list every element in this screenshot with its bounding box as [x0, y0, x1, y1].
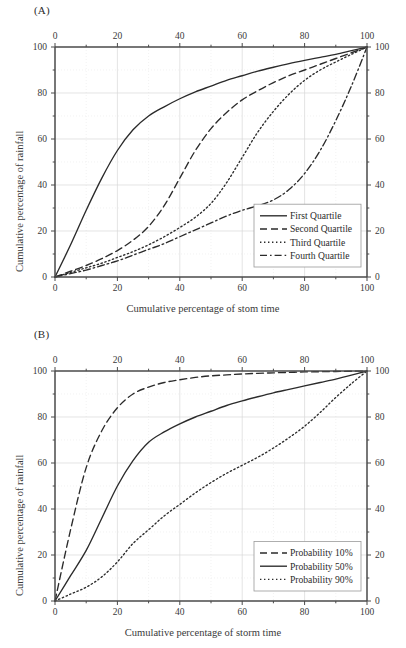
ytick-label-right: 20: [375, 226, 385, 236]
xtick-label-bottom: 60: [237, 283, 247, 293]
xtick-label-bottom: 0: [53, 607, 58, 617]
panel-b: (B) Cumulative percentage of storm time …: [0, 324, 406, 648]
xtick-label-bottom: 40: [175, 283, 185, 293]
ytick-label-right: 60: [375, 458, 385, 468]
xtick-label-top: 60: [237, 355, 247, 365]
ytick-label-right: 40: [375, 504, 385, 514]
ytick-label-right: 60: [375, 134, 385, 144]
xtick-label-top: 20: [113, 355, 123, 365]
xtick-label-top: 20: [113, 31, 123, 41]
ytick-label-left: 80: [38, 88, 48, 98]
ytick-label-left: 100: [33, 366, 48, 376]
ytick-label-left: 60: [38, 134, 48, 144]
ytick-label-right: 80: [375, 412, 385, 422]
ytick-label-right: 0: [375, 272, 380, 282]
ytick-label-left: 20: [38, 226, 48, 236]
ytick-label-left: 40: [38, 504, 48, 514]
ytick-label-left: 0: [42, 596, 47, 606]
xtick-label-bottom: 100: [360, 607, 375, 617]
ytick-label-right: 100: [375, 42, 390, 52]
legend-label-2: Probability 50%: [290, 561, 353, 572]
legend-label-4: Fourth Quartile: [290, 250, 349, 261]
legend-label-1: First Quartile: [290, 210, 341, 221]
ytick-label-left: 40: [38, 180, 48, 190]
xtick-label-top: 80: [300, 31, 310, 41]
ytick-label-left: 60: [38, 458, 48, 468]
ytick-label-left: 0: [42, 272, 47, 282]
xtick-label-bottom: 40: [175, 607, 185, 617]
ytick-label-right: 40: [375, 180, 385, 190]
panel-a-plot: 0020204040606080801001000020204040606080…: [0, 0, 406, 324]
panel-a: (A) Cumulative percentage of stom time C…: [0, 0, 406, 324]
xtick-label-bottom: 20: [113, 283, 123, 293]
ytick-label-right: 20: [375, 550, 385, 560]
xtick-label-top: 100: [360, 31, 375, 41]
xtick-label-bottom: 100: [360, 283, 375, 293]
xtick-label-bottom: 60: [237, 607, 247, 617]
legend-label-1: Probability 10%: [290, 547, 353, 558]
ytick-label-right: 0: [375, 596, 380, 606]
xtick-label-top: 0: [53, 31, 58, 41]
legend-label-3: Probability 90%: [290, 574, 353, 585]
xtick-label-top: 0: [53, 355, 58, 365]
xtick-label-top: 80: [300, 355, 310, 365]
panel-b-plot: 0020204040606080801001000020204040606080…: [0, 324, 406, 648]
xtick-label-bottom: 0: [53, 283, 58, 293]
ytick-label-left: 100: [33, 42, 48, 52]
xtick-label-bottom: 80: [300, 607, 310, 617]
xtick-label-top: 100: [360, 355, 375, 365]
ytick-label-left: 80: [38, 412, 48, 422]
xtick-label-top: 40: [175, 355, 185, 365]
xtick-label-bottom: 20: [113, 607, 123, 617]
xtick-label-top: 60: [237, 31, 247, 41]
legend-label-2: Second Quartile: [290, 223, 352, 234]
ytick-label-left: 20: [38, 550, 48, 560]
xtick-label-bottom: 80: [300, 283, 310, 293]
ytick-label-right: 80: [375, 88, 385, 98]
ytick-label-right: 100: [375, 366, 390, 376]
xtick-label-top: 40: [175, 31, 185, 41]
legend-label-3: Third Quartile: [290, 237, 345, 248]
